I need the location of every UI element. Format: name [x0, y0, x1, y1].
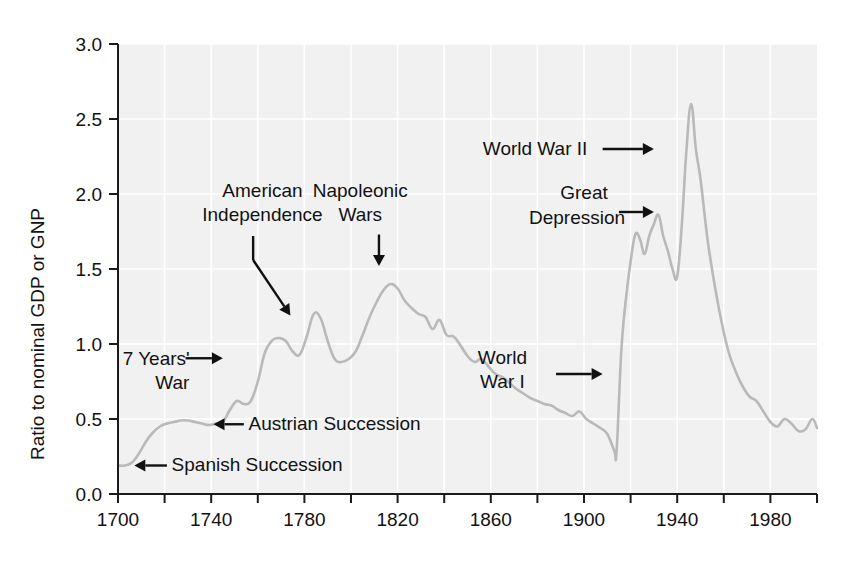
- annotation-label: World War II: [483, 138, 588, 159]
- x-tick-label: 1900: [563, 509, 605, 530]
- annotation-label-line1: Napoleonic: [313, 180, 408, 201]
- y-axis-title: Ratio to nominal GDP or GNP: [27, 208, 48, 460]
- y-tick-label: 2.0: [76, 184, 102, 205]
- annotation-label-line2: Depression: [529, 207, 625, 228]
- x-tick-label: 1820: [376, 509, 418, 530]
- x-tick-label: 1980: [749, 509, 791, 530]
- annotation-label-line2: War I: [480, 371, 525, 392]
- annotation-label-line2: Wars: [339, 204, 383, 225]
- historical-debt-ratio-chart: 0.00.51.01.52.02.53.0 170017401780182018…: [0, 0, 851, 570]
- annotation-label-line2: Independence: [202, 204, 322, 225]
- x-tick-label: 1940: [656, 509, 698, 530]
- y-tick-label: 0.0: [76, 484, 102, 505]
- y-axis-title-group: Ratio to nominal GDP or GNP: [27, 208, 48, 460]
- y-tick-label: 0.5: [76, 409, 102, 430]
- annotation-label: Spanish Succession: [172, 454, 343, 475]
- y-tick-label: 1.0: [76, 334, 102, 355]
- annotation-label-line2: War: [155, 372, 190, 393]
- x-tick-label: 1740: [190, 509, 232, 530]
- x-tick-label: 1860: [470, 509, 512, 530]
- chart-container: 0.00.51.01.52.02.53.0 170017401780182018…: [0, 0, 851, 570]
- annotation-label-line1: World: [478, 347, 527, 368]
- annotation-label-line1: 7 Years': [123, 348, 190, 369]
- y-tick-label: 1.5: [76, 259, 102, 280]
- annotation-label-line1: American: [222, 180, 302, 201]
- y-tick-label: 3.0: [76, 34, 102, 55]
- y-tick-label: 2.5: [76, 109, 102, 130]
- x-tick-label: 1700: [97, 509, 139, 530]
- annotation-label-line1: Great: [560, 182, 608, 203]
- x-tick-label: 1780: [283, 509, 325, 530]
- annotation-label: Austrian Succession: [248, 413, 420, 434]
